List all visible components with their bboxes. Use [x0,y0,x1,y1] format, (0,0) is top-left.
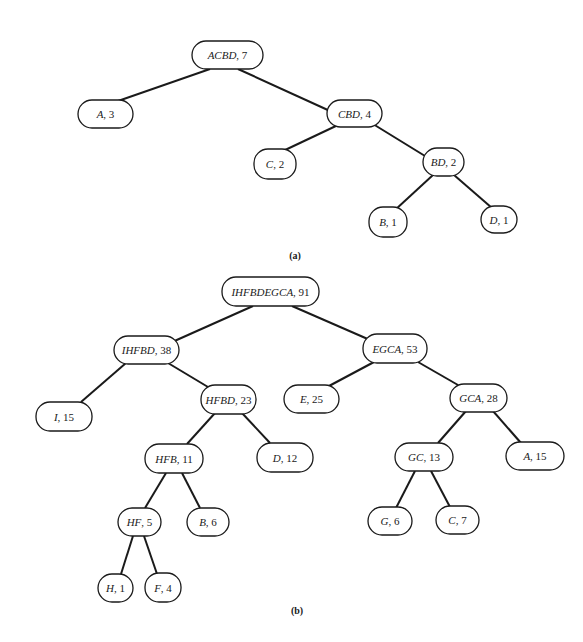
node-label: EGCA, 53 [371,343,418,355]
node-label: B, 1 [379,216,397,228]
node-label: HFBD, 23 [205,394,252,406]
tree-node-hfb: HFB, 11 [145,444,203,473]
node-label: HFB, 11 [154,453,192,465]
node-label: IHFBDEGCA, 91 [230,286,309,298]
tree-node-a: A, 15 [506,442,564,470]
node-label: CBD, 4 [338,108,372,120]
node-label: C, 2 [266,158,284,170]
node-label: BD, 2 [431,156,457,168]
tree-a: ACBD, 7A, 3CBD, 4C, 2BD, 2B, 1D, 1(a) [78,41,517,262]
edge-ihfbdegca-ihfbd [170,306,253,343]
figure-caption: (a) [289,250,301,262]
tree-node-c: C, 2 [254,149,296,179]
edge-hf-f [144,536,157,574]
tree-node-ihfbdegca: IHFBDEGCA, 91 [222,277,319,306]
tree-node-e: E, 25 [284,385,339,413]
edge-bd-b [395,175,433,210]
edge-cbd-c [283,125,338,151]
figure-caption: (b) [291,605,303,617]
node-label: A, 15 [522,450,547,462]
tree-node-d: D, 1 [481,206,517,233]
node-label: IHFBD, 38 [121,344,172,356]
tree-node-i: I, 15 [36,402,92,431]
edge-ihfbd-i [81,363,126,402]
node-label: H, 1 [105,582,125,594]
edge-egca-gca [418,362,458,385]
edge-bd-d [454,175,492,208]
edge-acbd-cbd [238,69,330,111]
node-label: D, 1 [489,214,509,226]
tree-node-gca: GCA, 28 [450,384,507,412]
node-label: B, 6 [199,516,217,528]
tree-node-b: B, 6 [187,508,229,536]
edge-ihfbd-hfbd [168,363,208,387]
tree-node-g: G, 6 [368,507,412,535]
edge-gca-gc [438,411,466,443]
tree-node-d: D, 12 [257,443,313,472]
edge-ihfbdegca-egca [292,306,370,340]
tree-node-c: C, 7 [436,506,479,534]
edge-acbd-a [118,69,210,101]
tree-node-gc: GC, 13 [395,443,453,471]
edge-cbd-bd [373,124,425,156]
tree-node-egca: EGCA, 53 [363,334,427,363]
node-label: A, 3 [96,108,115,120]
node-label: GC, 13 [408,451,440,463]
tree-node-hf: HF, 5 [118,508,161,536]
edge-egca-e [329,362,374,386]
tree-node-cbd: CBD, 4 [327,100,382,127]
node-label: ACBD, 7 [207,49,248,61]
edge-hfbd-hfb [187,413,215,444]
tree-b: IHFBDEGCA, 91IHFBD, 38EGCA, 53I, 15HFBD,… [36,277,564,617]
tree-node-f: F, 4 [145,573,181,602]
tree-node-h: H, 1 [98,574,133,602]
tree-node-b: B, 1 [369,207,407,237]
node-label: C, 7 [448,514,467,526]
tree-node-ihfbd: IHFBD, 38 [114,336,179,364]
node-label: F, 4 [153,582,172,594]
node-label: HF, 5 [126,516,153,528]
node-label: E, 25 [299,393,324,405]
node-label: GCA, 28 [459,392,498,404]
edge-hfb-hf [145,473,166,508]
edge-hfb-b [182,473,200,508]
tree-node-hfbd: HFBD, 23 [201,385,256,414]
edge-gc-g [396,471,415,508]
node-label: G, 6 [381,515,400,527]
tree-node-acbd: ACBD, 7 [192,41,263,69]
edge-hf-h [121,536,133,574]
edge-hfbd-d [242,413,270,443]
edge-gca-a [493,411,521,443]
node-label: D, 12 [272,452,297,464]
node-label: I, 15 [53,411,75,423]
tree-node-a: A, 3 [78,100,133,128]
edge-gc-c [431,471,450,507]
huffman-tree-diagram: ACBD, 7A, 3CBD, 4C, 2BD, 2B, 1D, 1(a)IHF… [0,0,583,642]
tree-node-bd: BD, 2 [423,148,464,176]
